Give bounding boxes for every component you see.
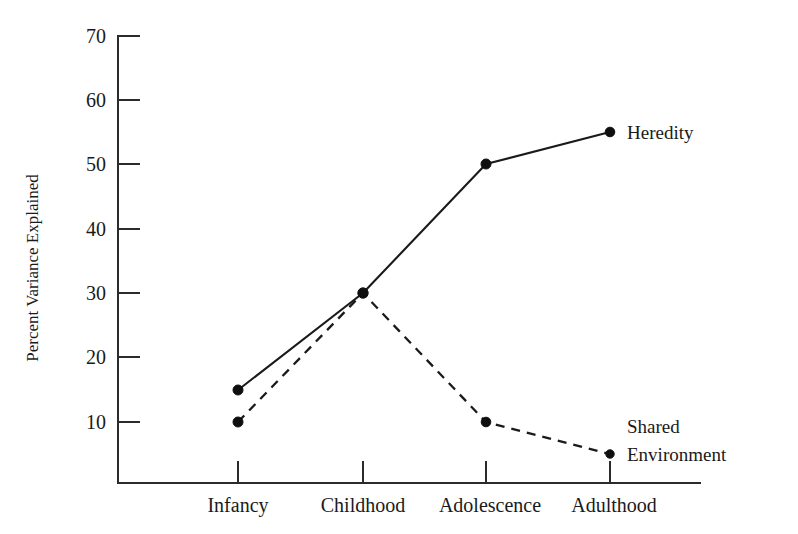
data-point-shared-infancy bbox=[233, 417, 243, 427]
y-tick-label-20: 20 bbox=[86, 346, 106, 368]
data-point-heredity-infancy bbox=[233, 385, 243, 395]
data-point-shared-adulthood bbox=[606, 450, 614, 458]
x-tick-label-infancy: Infancy bbox=[207, 494, 268, 517]
chart-container: 70 60 50 40 30 20 10 Infancy Childhood A… bbox=[0, 0, 798, 534]
data-point-shared-adolescence bbox=[481, 417, 491, 427]
y-axis-title: Percent Variance Explained bbox=[23, 174, 42, 362]
data-point-heredity-childhood bbox=[358, 288, 368, 298]
y-tick-label-30: 30 bbox=[86, 282, 106, 304]
line-chart: 70 60 50 40 30 20 10 Infancy Childhood A… bbox=[0, 0, 798, 534]
y-tick-label-70: 70 bbox=[86, 25, 106, 47]
series-label-shared-line1: Shared bbox=[627, 416, 680, 437]
y-tick-label-40: 40 bbox=[86, 218, 106, 240]
data-point-heredity-adolescence bbox=[481, 159, 491, 169]
x-tick-label-adolescence: Adolescence bbox=[439, 494, 541, 516]
y-tick-label-10: 10 bbox=[86, 411, 106, 433]
series-label-shared-line2: Environment bbox=[627, 444, 727, 465]
x-tick-label-adulthood: Adulthood bbox=[571, 494, 657, 516]
series-label-heredity: Heredity bbox=[627, 122, 694, 143]
y-tick-label-60: 60 bbox=[86, 89, 106, 111]
y-tick-label-50: 50 bbox=[86, 153, 106, 175]
data-point-heredity-adulthood bbox=[605, 127, 615, 137]
x-tick-label-childhood: Childhood bbox=[321, 494, 405, 516]
